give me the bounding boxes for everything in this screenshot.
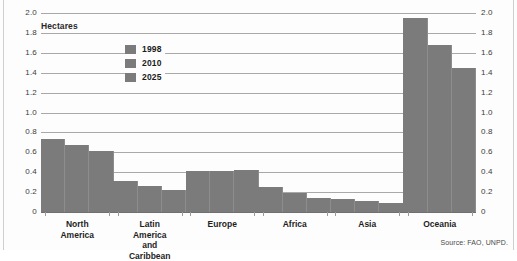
legend-item: 2010 bbox=[125, 58, 165, 68]
frame-right-edge bbox=[513, 0, 514, 250]
baseline-tick bbox=[472, 212, 473, 216]
bar bbox=[162, 190, 186, 212]
source-note: Source: FAO, UNPD. bbox=[440, 239, 508, 246]
baseline-tick bbox=[190, 212, 191, 216]
bar bbox=[331, 199, 355, 212]
y-tick-right-2.0: 2.0 bbox=[481, 9, 493, 17]
baseline-tick bbox=[263, 212, 264, 216]
baseline-tick bbox=[408, 212, 409, 216]
x-axis-category-label: Oceania bbox=[423, 219, 456, 230]
gridline-0 bbox=[41, 212, 476, 213]
y-tick-right-1.4: 1.4 bbox=[481, 69, 493, 77]
y-tick-left-0.2: 0.2 bbox=[25, 188, 37, 196]
plot-area: 2.01.81.61.41.21.00.80.60.40.20 2.01.81.… bbox=[41, 13, 476, 212]
baseline-tick bbox=[327, 212, 328, 216]
baseline-tick bbox=[45, 212, 46, 216]
x-axis-category-label: North America bbox=[60, 219, 94, 240]
y-tick-left-1.0: 1.0 bbox=[25, 109, 37, 117]
bar-group: North America bbox=[41, 13, 114, 212]
bar bbox=[379, 203, 403, 212]
bar-group: Africa bbox=[258, 13, 331, 212]
bar bbox=[89, 151, 113, 212]
bar-group: Asia bbox=[331, 13, 404, 212]
legend-swatch-icon bbox=[125, 45, 136, 54]
y-tick-left-2.0: 2.0 bbox=[25, 9, 37, 17]
y-tick-left-1.8: 1.8 bbox=[25, 29, 37, 37]
y-tick-right-0: 0 bbox=[481, 208, 486, 216]
y-tick-left-0.4: 0.4 bbox=[25, 168, 37, 176]
y-tick-right-1.6: 1.6 bbox=[481, 49, 493, 57]
bar bbox=[210, 171, 234, 212]
bar bbox=[186, 171, 210, 212]
legend-label: 2010 bbox=[142, 58, 162, 68]
legend-item: 2025 bbox=[125, 72, 165, 82]
bar bbox=[234, 170, 258, 212]
y-tick-left-0.6: 0.6 bbox=[25, 148, 37, 156]
y-tick-left-0: 0 bbox=[32, 208, 37, 216]
y-tick-right-0.8: 0.8 bbox=[481, 128, 493, 136]
baseline-tick bbox=[399, 212, 400, 216]
chart-legend: 199820102025 bbox=[125, 44, 165, 82]
bar bbox=[113, 181, 137, 212]
frame-left-edge bbox=[3, 0, 4, 250]
bar bbox=[258, 187, 282, 212]
y-tick-left-1.4: 1.4 bbox=[25, 69, 37, 77]
baseline-tick bbox=[182, 212, 183, 216]
bar bbox=[41, 139, 65, 212]
bar bbox=[307, 198, 331, 212]
bar-group: Europe bbox=[186, 13, 259, 212]
baseline-tick bbox=[118, 212, 119, 216]
y-tick-right-1.2: 1.2 bbox=[481, 89, 493, 97]
bar bbox=[452, 68, 476, 212]
legend-swatch-icon bbox=[125, 59, 136, 68]
bar-group: Latin America and Caribbean bbox=[113, 13, 186, 212]
legend-label: 1998 bbox=[142, 44, 162, 54]
baseline-tick bbox=[335, 212, 336, 216]
y-tick-left-1.6: 1.6 bbox=[25, 49, 37, 57]
baseline-tick bbox=[109, 212, 110, 216]
legend-item: 1998 bbox=[125, 44, 165, 54]
legend-swatch-icon bbox=[125, 73, 136, 82]
legend-label: 2025 bbox=[142, 72, 162, 82]
y-tick-right-0.4: 0.4 bbox=[481, 168, 493, 176]
x-axis-category-label: Asia bbox=[358, 219, 376, 230]
y-tick-right-0.6: 0.6 bbox=[481, 148, 493, 156]
baseline-tick bbox=[254, 212, 255, 216]
bar bbox=[138, 186, 162, 212]
x-axis-category-label: Africa bbox=[283, 219, 307, 230]
bar bbox=[355, 201, 379, 212]
y-tick-right-1.8: 1.8 bbox=[481, 29, 493, 37]
x-axis-category-label: Europe bbox=[208, 219, 237, 230]
bar-group: Oceania bbox=[403, 13, 476, 212]
bar bbox=[65, 145, 89, 212]
bar bbox=[283, 193, 307, 212]
bar bbox=[428, 45, 452, 212]
y-tick-right-1.0: 1.0 bbox=[481, 109, 493, 117]
y-tick-right-0.2: 0.2 bbox=[481, 188, 493, 196]
x-axis-category-label: Latin America and Caribbean bbox=[129, 219, 171, 261]
y-tick-left-0.8: 0.8 bbox=[25, 128, 37, 136]
y-tick-left-1.2: 1.2 bbox=[25, 89, 37, 97]
bar bbox=[403, 18, 427, 212]
